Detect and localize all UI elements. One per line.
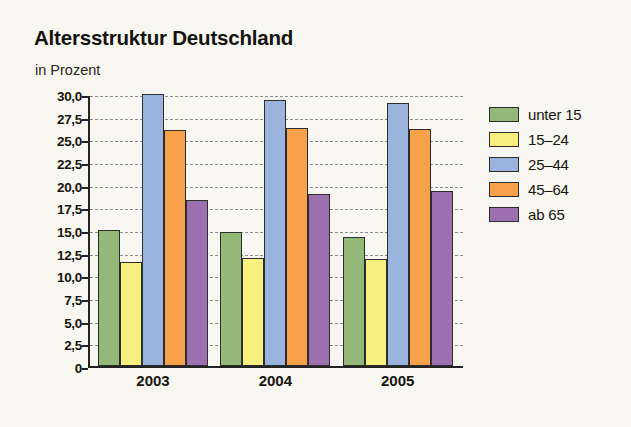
y-axis-tick-label: 15,0: [57, 225, 82, 240]
y-axis-tick-label: 17,5: [57, 202, 82, 217]
bar-group-2004: [220, 96, 330, 366]
legend-item-ab-65: ab 65: [489, 203, 619, 226]
page-title: Altersstruktur Deutschland: [34, 26, 293, 50]
bar-2004-15-24: [242, 258, 264, 366]
y-axis-tick-labels: 02,55,07,510,012,515,017,520,022,525,027…: [20, 96, 82, 368]
legend-item-label: 45–64: [528, 181, 569, 198]
legend-swatch-icon: [489, 107, 519, 122]
bar-2005-15-24: [365, 259, 387, 366]
bar-group-2003: [98, 96, 208, 366]
plot-area: 200320042005: [88, 96, 463, 368]
y-axis-tick-label: 27,5: [57, 111, 82, 126]
bar-2004-25-44: [264, 100, 286, 366]
legend-item-label: ab 65: [528, 206, 565, 223]
y-axis-tick-label: 30,0: [57, 89, 82, 104]
chart-subtitle: in Prozent: [35, 62, 100, 78]
legend-item-15-24: 15–24: [489, 128, 619, 151]
x-axis-tick-label: 2004: [259, 372, 292, 389]
bar-2003-25-44: [142, 94, 164, 366]
bar-2003-ab-65: [186, 200, 208, 366]
legend-item-label: unter 15: [528, 106, 581, 123]
bars-layer: [90, 96, 463, 366]
y-axis-tick-label: 0: [75, 361, 82, 376]
y-axis-tick-label: 5,0: [64, 315, 82, 330]
legend-item-label: 25–44: [528, 156, 569, 173]
legend-swatch-icon: [489, 207, 519, 222]
bar-2004-45-64: [286, 128, 308, 366]
y-axis-tick-label: 2,5: [64, 338, 82, 353]
bar-2003-45-64: [164, 130, 186, 366]
legend-item-25-44: 25–44: [489, 153, 619, 176]
y-axis-tick-label: 12,5: [57, 247, 82, 262]
x-axis-tick-label: 2005: [381, 372, 414, 389]
bar-2005-45-64: [409, 129, 431, 366]
legend-swatch-icon: [489, 132, 519, 147]
bar-2005-25-44: [387, 103, 409, 366]
chart-card: Altersstruktur Deutschland in Prozent 02…: [0, 0, 631, 427]
bar-group-2005: [343, 96, 453, 366]
legend-item-label: 15–24: [528, 131, 569, 148]
y-axis-tick-mark: [82, 368, 88, 370]
y-axis-tick-label: 7,5: [64, 293, 82, 308]
legend-item-45-64: 45–64: [489, 178, 619, 201]
bar-2003-15-24: [120, 262, 142, 366]
y-axis-tick-label: 10,0: [57, 270, 82, 285]
legend-item-unter-15: unter 15: [489, 103, 619, 126]
x-axis-tick-label: 2003: [136, 372, 169, 389]
y-axis-tick-label: 20,0: [57, 179, 82, 194]
bar-2005-ab-65: [431, 191, 453, 366]
bar-2003-unter-15: [98, 230, 120, 366]
bar-2004-ab-65: [308, 194, 330, 366]
legend-swatch-icon: [489, 157, 519, 172]
bar-2005-unter-15: [343, 237, 365, 366]
bar-2004-unter-15: [220, 232, 242, 366]
y-axis-tick-label: 25,0: [57, 134, 82, 149]
chart-legend: unter 1515–2425–4445–64ab 65: [489, 103, 619, 228]
legend-swatch-icon: [489, 182, 519, 197]
y-axis-tick-label: 22,5: [57, 157, 82, 172]
